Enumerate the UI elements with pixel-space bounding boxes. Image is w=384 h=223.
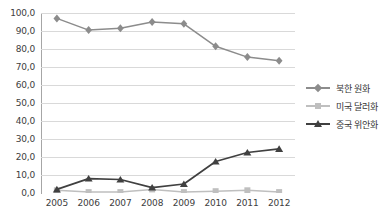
y-tick-label: 80,0	[16, 44, 35, 54]
line-chart: 0,010,020,030,040,050,060,070,080,090,01…	[0, 0, 384, 223]
marker-diamond	[149, 18, 156, 26]
marker-diamond	[276, 57, 283, 65]
marker-diamond	[85, 26, 92, 34]
y-tick-label: 20,0	[16, 152, 35, 162]
y-tick-label: 60,0	[16, 80, 35, 90]
legend-key-diamond-icon	[306, 82, 330, 94]
marker-diamond	[53, 14, 60, 22]
series-2	[54, 186, 282, 193]
marker-square	[213, 188, 219, 193]
x-tick-label: 2006	[78, 198, 100, 208]
x-tick-label: 2012	[268, 198, 290, 208]
marker-diamond	[244, 53, 251, 61]
y-tick-label: 40,0	[16, 116, 35, 126]
x-tick-label: 2008	[141, 198, 163, 208]
y-tick-label: 30,0	[16, 134, 35, 144]
marker-diamond	[180, 20, 187, 28]
top-edge-artifact	[322, 1, 372, 5]
y-tick-label: 90,0	[16, 26, 35, 36]
legend-item-3[interactable]: 중국 위안화	[306, 115, 382, 133]
legend-label: 중국 위안화	[336, 118, 378, 131]
legend-item-2[interactable]: 미국 달러화	[306, 97, 382, 115]
x-axis: 20052006200720082009201020112012	[41, 198, 295, 218]
y-tick-label: 0,0	[21, 188, 35, 198]
marker-square	[276, 189, 282, 193]
marker-square	[117, 189, 123, 193]
plot-svg	[41, 13, 295, 193]
plot-area	[41, 13, 295, 193]
y-tick-label: 10,0	[16, 170, 35, 180]
legend-label: 북한 원화	[336, 82, 370, 95]
y-tick-label: 100,0	[10, 8, 35, 18]
x-tick-label: 2010	[205, 198, 227, 208]
legend-item-1[interactable]: 북한 원화	[306, 79, 382, 97]
series-1	[53, 14, 282, 64]
legend-key-triangle-icon	[306, 118, 330, 130]
legend-label: 미국 달러화	[336, 100, 378, 113]
legend-key-square-icon	[306, 100, 330, 112]
y-axis: 0,010,020,030,040,050,060,070,080,090,01…	[0, 0, 38, 223]
x-tick-label: 2007	[109, 198, 131, 208]
gridlines	[41, 13, 295, 193]
y-tick-label: 50,0	[16, 98, 35, 108]
series-line	[57, 18, 279, 60]
x-tick-label: 2011	[236, 198, 258, 208]
x-tick-label: 2005	[46, 198, 68, 208]
x-tick-label: 2009	[173, 198, 195, 208]
marker-square	[181, 189, 187, 193]
chart-legend: 북한 원화미국 달러화중국 위안화	[306, 79, 382, 133]
marker-square	[86, 189, 92, 193]
y-tick-label: 70,0	[16, 62, 35, 72]
marker-square	[244, 187, 250, 193]
series-3	[53, 145, 283, 192]
